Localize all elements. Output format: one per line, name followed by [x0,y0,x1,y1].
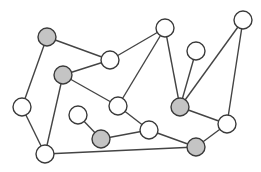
node-N-gray [187,138,205,156]
edge-D-J [227,20,243,124]
graph-diagram [0,0,261,172]
edge-A-G [22,37,47,107]
node-H-white [109,97,127,115]
node-C-white [156,19,174,37]
edge-O-N [45,147,196,154]
node-O-white [36,145,54,163]
edge-D-I [180,20,243,107]
node-I-gray [171,98,189,116]
node-L-gray [92,130,110,148]
node-B-white [101,51,119,69]
node-M-white [140,121,158,139]
node-J-white [218,115,236,133]
node-F-gray [54,66,72,84]
node-E-white [187,42,205,60]
node-D-white [234,11,252,29]
edge-C-I [165,28,180,107]
node-A-gray [38,28,56,46]
node-G-white [13,98,31,116]
edge-A-B [47,37,110,60]
edge-C-H [118,28,165,106]
edge-F-O [45,75,63,154]
node-K-white [69,106,87,124]
